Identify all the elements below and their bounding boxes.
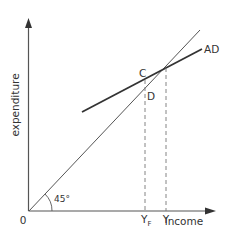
y-tick-label: Y	[162, 213, 170, 225]
y-axis-arrow-icon	[25, 18, 32, 28]
angle-arc	[45, 194, 52, 211]
y-axis-label: expenditure	[9, 73, 21, 136]
keynesian-cross-diagram: expenditure income 0 45° AD C D YF Y	[0, 0, 226, 238]
angle-label: 45°	[54, 194, 70, 204]
yf-tick-label: YF	[140, 213, 151, 228]
point-c-label: C	[139, 67, 146, 79]
x-axis-label: income	[165, 215, 203, 227]
forty-five-degree-line	[29, 30, 200, 211]
origin-label: 0	[20, 214, 27, 226]
x-axis-arrow-icon	[205, 208, 216, 215]
point-d-label: D	[147, 90, 155, 102]
ad-line	[82, 49, 202, 112]
ad-label: AD	[204, 43, 219, 55]
